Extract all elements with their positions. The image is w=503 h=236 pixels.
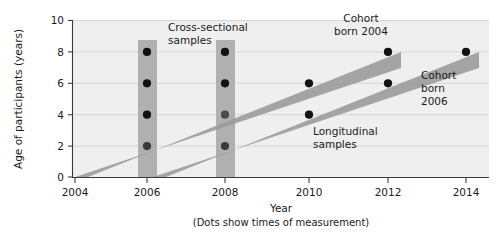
x-tick-label-2010: 2010 — [296, 186, 323, 198]
x-tick-label-2012: 2012 — [375, 186, 402, 198]
annotation-cohort-2004: Cohort born 2004 — [334, 12, 388, 37]
x-axis-title: Year — [269, 202, 293, 214]
dot — [221, 142, 229, 150]
dot — [305, 79, 313, 87]
y-axis-ticks — [68, 21, 72, 178]
dot — [143, 48, 151, 56]
dot — [462, 48, 470, 56]
cohort-sequential-design-chart: 0 2 4 6 8 10 2004 2006 2008 2010 2012 20… — [0, 0, 503, 236]
vertical-band-2006 — [138, 40, 157, 177]
annotation-longitudinal-line1: Longitudinal — [313, 125, 378, 137]
annotation-cohort-2006-line1: Cohort — [421, 69, 456, 81]
x-tick-label-2008: 2008 — [212, 186, 239, 198]
x-tick-label-2014: 2014 — [453, 186, 480, 198]
annotation-cohort-2006-line3: 2006 — [421, 95, 448, 107]
annotation-cross-sectional-line1: Cross-sectional — [168, 21, 248, 33]
dot — [384, 79, 392, 87]
dot — [143, 142, 151, 150]
vertical-band-2008 — [216, 40, 235, 177]
dot — [221, 48, 229, 56]
annotation-longitudinal-line2: samples — [313, 138, 357, 150]
x-tick-label-2006: 2006 — [134, 186, 161, 198]
y-axis-title: Age of participants (years) — [12, 29, 24, 169]
y-tick-label-6: 6 — [57, 77, 64, 89]
x-axis-note: (Dots show times of measurement) — [193, 217, 370, 228]
y-tick-label-0: 0 — [57, 171, 64, 183]
x-tick-label-2004: 2004 — [62, 186, 89, 198]
y-tick-label-8: 8 — [57, 46, 64, 58]
dot — [143, 79, 151, 87]
dot — [143, 111, 151, 119]
y-tick-label-4: 4 — [57, 109, 64, 121]
dot — [221, 111, 229, 119]
annotation-cross-sectional-line2: samples — [168, 34, 212, 46]
chart-container: 0 2 4 6 8 10 2004 2006 2008 2010 2012 20… — [0, 0, 503, 236]
annotation-cohort-2006-line2: born — [421, 82, 445, 94]
annotation-cohort-2004-line2: born 2004 — [334, 25, 388, 37]
dot — [221, 79, 229, 87]
y-tick-label-2: 2 — [57, 140, 64, 152]
dot — [384, 48, 392, 56]
dot — [305, 111, 313, 119]
y-tick-label-10: 10 — [51, 14, 64, 26]
annotation-cohort-2004-line1: Cohort — [343, 12, 378, 24]
